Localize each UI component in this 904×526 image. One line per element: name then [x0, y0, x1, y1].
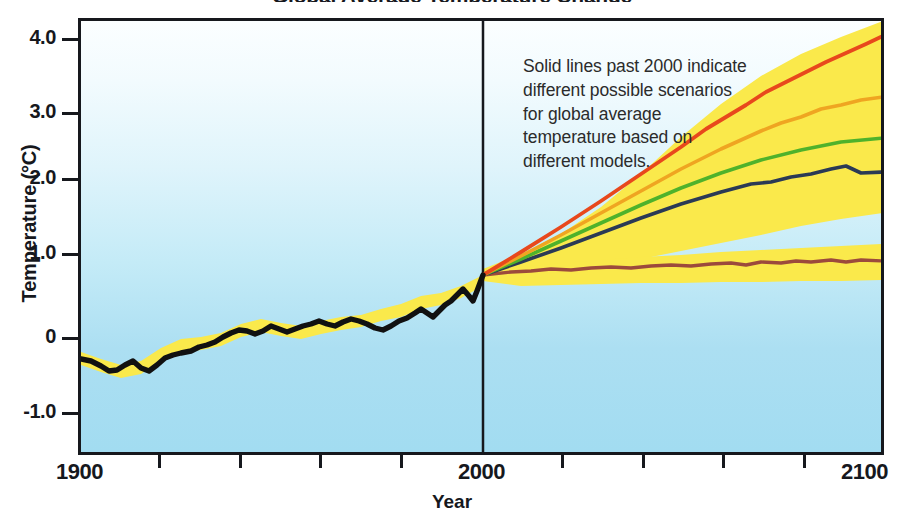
x-minor-tick — [561, 455, 564, 468]
y-tick-label-5: -1.0 — [23, 400, 56, 423]
y-tick-label-4: 0 — [45, 325, 56, 348]
x-minor-tick — [158, 455, 161, 468]
y-tick-2 — [62, 178, 78, 181]
x-axis-label: Year — [0, 491, 904, 513]
x-minor-tick — [239, 455, 242, 468]
y-tick-4 — [62, 337, 78, 340]
annotation-line-1: different possible scenarios — [523, 79, 791, 103]
x-minor-tick — [642, 455, 645, 468]
temperature-projection-chart: Global Average Temperature Change 4.0 3.… — [0, 0, 904, 526]
x-minor-tick — [803, 455, 806, 468]
y-tick-3 — [62, 253, 78, 256]
annotation-line-2: for global average — [523, 103, 791, 127]
x-tick-label-2000: 2000 — [458, 459, 505, 485]
annotation-line-0: Solid lines past 2000 indicate — [523, 55, 791, 79]
x-minor-tick — [722, 455, 725, 468]
y-tick-0 — [62, 38, 78, 41]
x-tick-label-1900: 1900 — [56, 459, 103, 485]
annotation-line-3: temperature based on — [523, 126, 791, 150]
y-axis-label: Temperature (°C) — [18, 119, 41, 329]
x-tick-label-2100: 2100 — [841, 459, 888, 485]
y-tick-5 — [62, 412, 78, 415]
historical-uncertainty-band — [81, 269, 483, 378]
annotation-text: Solid lines past 2000 indicate different… — [523, 55, 791, 174]
chart-title: Global Average Temperature Change — [0, 0, 904, 2]
y-tick-label-0: 4.0 — [29, 26, 56, 49]
annotation-line-4: different models. — [523, 150, 791, 174]
series-line-historical — [81, 275, 483, 371]
x-minor-tick — [400, 455, 403, 468]
y-tick-1 — [62, 112, 78, 115]
x-minor-tick — [319, 455, 322, 468]
